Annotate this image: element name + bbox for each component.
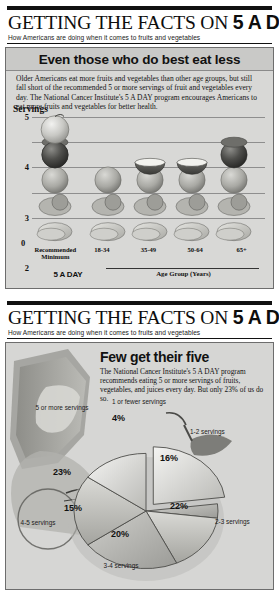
pie-value-4-5: 15% bbox=[64, 503, 82, 513]
pie-value-5-or-more: 23% bbox=[53, 467, 71, 477]
masthead-rule-bottom-2 bbox=[7, 338, 272, 339]
masthead-title: GETTING THE FACTS ON 5 A DAY bbox=[5, 12, 274, 33]
masthead-title-2: GETTING THE FACTS ON 5 A DAY bbox=[5, 307, 274, 328]
bar-chart-box: Even those who do best eat less Older Am… bbox=[5, 47, 274, 289]
masthead-panel2: GETTING THE FACTS ON 5 A DAY How America… bbox=[5, 301, 274, 339]
masthead-rule-top bbox=[7, 6, 272, 10]
panel-bar-chart: GETTING THE FACTS ON 5 A DAY How America… bbox=[5, 6, 274, 289]
panel2-headline: Few get their five bbox=[100, 349, 267, 365]
bar-5 bbox=[216, 137, 251, 240]
bar-4 bbox=[174, 158, 209, 240]
x-axis-labels: RecommendedMinimum18-3435-4950-6465+ bbox=[32, 246, 265, 286]
pie-chart-box: Few get their five The National Cancer I… bbox=[5, 342, 274, 590]
masthead-subtitle: How Americans are doing when it comes to… bbox=[5, 34, 274, 41]
x-axis-title: Age Group (Years) bbox=[102, 270, 265, 277]
pie-value-2-3: 22% bbox=[170, 501, 188, 511]
masthead-subtitle-2: How Americans are doing when it comes to… bbox=[5, 329, 274, 336]
x-tick-4: 50-64 bbox=[172, 246, 219, 261]
bar-1 bbox=[37, 114, 72, 240]
pie-label-3-4: 3-4 servings bbox=[84, 562, 158, 569]
pie-label-1-or-fewer: 1 or fewer servings bbox=[112, 398, 168, 405]
pie-label-1-2: 1-2 servings bbox=[190, 428, 232, 435]
masthead-panel1: GETTING THE FACTS ON 5 A DAY How America… bbox=[5, 6, 274, 44]
y-tick-zero: 0 bbox=[21, 238, 25, 248]
masthead-rule-bottom bbox=[7, 43, 272, 44]
recommended-brand-label: 5 A DAY bbox=[32, 270, 104, 279]
bar-chart-plot: Servings 12345 bbox=[6, 104, 273, 288]
pie-label-2-3: 2-3 servings bbox=[215, 518, 255, 525]
pie-value-1-2: 16% bbox=[160, 453, 178, 463]
panel1-headline: Even those who do best eat less bbox=[6, 48, 273, 71]
x-tick-3: 35-49 bbox=[125, 246, 172, 261]
x-tick-1: RecommendedMinimum bbox=[32, 246, 79, 261]
pie-label-5-or-more: 5 or more servings bbox=[34, 404, 90, 411]
masthead-title-light: GETTING THE FACTS ON bbox=[8, 12, 233, 33]
masthead-title-bold-2: 5 A DAY bbox=[233, 306, 279, 328]
x-tick-2: 18-34 bbox=[79, 246, 126, 261]
bar-2 bbox=[90, 167, 125, 241]
masthead-rule-top-2 bbox=[7, 301, 272, 305]
pie-value-1-or-fewer: 4% bbox=[112, 413, 125, 423]
x-axis-rule bbox=[106, 268, 259, 269]
panel2-header: Few get their five The National Cancer I… bbox=[100, 349, 267, 403]
pie-label-4-5: 4-5 servings bbox=[16, 519, 60, 526]
pie-value-3-4: 20% bbox=[111, 529, 129, 539]
infographic-page: GETTING THE FACTS ON 5 A DAY How America… bbox=[0, 0, 279, 598]
masthead-title-light-2: GETTING THE FACTS ON bbox=[8, 307, 233, 328]
x-tick-5: 65+ bbox=[218, 246, 265, 261]
masthead-title-bold: 5 A DAY bbox=[233, 11, 279, 33]
bar-3 bbox=[132, 158, 167, 240]
panel-pie-chart: GETTING THE FACTS ON 5 A DAY How America… bbox=[5, 301, 274, 590]
